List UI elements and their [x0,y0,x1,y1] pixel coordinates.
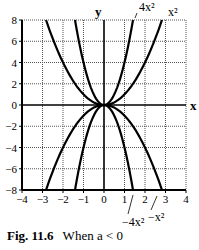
label-neg-4x2: −4x² [122,215,145,229]
label-pointer [135,13,137,18]
y-axis-label: y [95,4,102,19]
y-tick-label: −6 [5,163,17,175]
y-tick-label: 4 [12,57,18,69]
x-tick-label: −4 [16,193,28,205]
x-tick-label: 4 [183,193,189,205]
figure-number: Fig. 11.6 [7,228,54,243]
x-tick-label: −1 [78,193,90,205]
x-axis-label: x [190,98,197,113]
y-tick-label: 0 [12,99,18,111]
x-tick-label: 2 [142,193,148,205]
x-tick-label: −3 [37,193,49,205]
axes [19,20,186,193]
x-tick-label: 0 [101,193,107,205]
caption-text: When a < 0 [63,228,123,243]
label-4x2: 4x² [139,0,155,14]
figure-caption: Fig. 11.6 When a < 0 [7,228,123,244]
y-tick-label: 2 [12,78,18,90]
y-tick-label: −8 [5,184,17,196]
label-pointer [128,195,133,214]
label-neg-x2: −x² [148,210,165,224]
y-tick-label: −4 [5,142,17,154]
y-tick-label: 6 [12,35,18,47]
y-tick-label: −2 [5,120,17,132]
y-tick-label: 8 [12,14,18,26]
parabola-chart: −4−3−2−101234−8−6−4−202468 yx4x²x²−4x²−x… [0,0,199,250]
x-tick-label: 1 [122,193,128,205]
x-tick-label: 3 [163,193,169,205]
label-pointer [151,196,157,210]
label-x2: x² [168,5,178,19]
x-tick-label: −2 [57,193,69,205]
